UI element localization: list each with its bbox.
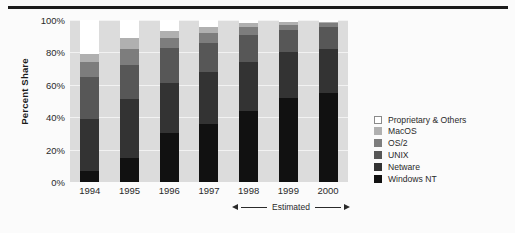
bar-segment [80,54,99,62]
bar-group [70,20,348,182]
x-axis-tick: 1998 [231,185,267,196]
x-axis-tick: 1997 [191,185,227,196]
legend-swatch [374,151,382,159]
y-axis-tick: 60% [46,79,65,90]
bar-segment [279,98,298,182]
bar-1996 [160,20,179,182]
legend-label: Windows NT [388,174,437,184]
bar-segment [120,99,139,157]
bar-segment [120,49,139,65]
legend-item: OS/2 [374,138,514,149]
x-axis-tick: 1999 [270,185,306,196]
bar-1997 [199,20,218,182]
top-divider-rule [8,6,508,9]
bar-1995 [120,20,139,182]
bar-segment [239,35,258,63]
y-axis-tick-labels: 100%80%60%40%20%0% [24,20,68,182]
legend-swatch [374,175,382,183]
legend-item: UNIX [374,149,514,160]
bar-segment [120,65,139,99]
legend-swatch [374,139,382,147]
legend-label: Proprietary & Others [388,115,466,125]
bar-segment [160,83,179,133]
legend-swatch [374,127,382,135]
y-axis-tick: 80% [46,47,65,58]
bar-1994 [80,20,99,182]
bar-segment [239,27,258,35]
chart-figure: Percent Share 100%80%60%40%20%0% 1994199… [0,0,515,233]
bar-segment [80,77,99,119]
y-axis-tick: 40% [46,112,65,123]
estimated-annotation: Estimated [232,200,350,214]
bar-1998 [239,20,258,182]
bar-segment [160,48,179,84]
bar-segment [160,133,179,182]
legend-swatch [374,116,382,124]
arrow-right-icon [344,204,350,210]
bar-segment [80,119,99,171]
y-axis-tick: 0% [51,177,65,188]
x-axis-tick: 1996 [151,185,187,196]
bar-segment [160,38,179,48]
bar-segment [199,33,218,43]
bar-segment [120,20,139,38]
legend-label: UNIX [388,150,409,160]
legend-swatch [374,163,382,171]
chart-legend: Proprietary & OthersMacOSOS/2UNIXNetware… [374,114,514,185]
bar-segment [239,62,258,111]
legend-item: Netware [374,161,514,172]
bar-segment [199,72,218,124]
legend-label: Netware [388,162,420,172]
bar-segment [239,111,258,182]
x-axis-tick: 1994 [72,185,108,196]
bar-segment [80,171,99,182]
bar-segment [120,38,139,49]
annotation-line-right [315,207,341,208]
y-axis-tick: 100% [41,15,65,26]
bar-segment [199,43,218,72]
legend-item: MacOS [374,126,514,137]
arrow-left-icon [232,204,238,210]
estimated-label: Estimated [270,202,312,212]
y-axis-tick: 20% [46,144,65,155]
bar-segment [80,20,99,54]
bar-segment [279,52,298,97]
plot-area [70,20,348,182]
x-axis-tick-labels: 1994199519961997199819992000 [70,185,348,196]
bar-segment [199,124,218,182]
bar-segment [160,20,179,31]
bar-segment [279,30,298,53]
bar-segment [120,158,139,182]
legend-label: OS/2 [388,138,408,148]
bar-segment [319,93,338,182]
bar-1999 [279,20,298,182]
annotation-line-left [241,207,267,208]
bar-segment [319,27,338,50]
x-axis-tick: 1995 [112,185,148,196]
legend-item: Proprietary & Others [374,114,514,125]
legend-label: MacOS [388,126,417,136]
bar-segment [319,49,338,93]
bar-2000 [319,20,338,182]
x-axis-tick: 2000 [310,185,346,196]
legend-item: Windows NT [374,173,514,184]
bar-segment [80,62,99,77]
